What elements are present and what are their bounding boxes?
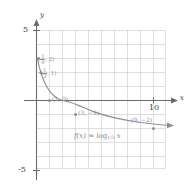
fraction-one-ninth: 19	[40, 54, 45, 66]
point-label-one-ninth: (19, 2)	[38, 54, 55, 66]
point-label-one-third: (13, 1)	[40, 68, 57, 80]
y-axis-arrowhead	[34, 19, 40, 26]
equation-equals: =	[88, 132, 94, 140]
point-marker-three	[74, 113, 77, 116]
curve-right-arrowhead	[167, 123, 174, 129]
equation-variable: x	[117, 132, 121, 140]
equation-base-subscript: 1/3	[107, 135, 114, 140]
point-label-tail: , 1)	[47, 70, 56, 76]
coordinate-plane-svg	[0, 0, 194, 185]
x-tick-label-10: 10	[149, 104, 159, 112]
x-axis-label: x	[180, 95, 184, 102]
point-marker-nine	[152, 127, 155, 130]
point-label-three: (3, −1)	[78, 110, 99, 116]
point-marker-one-zero	[48, 99, 51, 102]
y-axis-label: y	[40, 12, 44, 19]
point-label-tail: , 2)	[45, 56, 54, 62]
graph-figure: y x 5 -5 10 (19, 2) (13, 1) (1, 0) (3, −…	[0, 0, 194, 185]
x-axis-arrowhead	[171, 98, 178, 104]
fraction-one-third: 13	[42, 68, 47, 80]
equation-paren-x: (x)	[77, 132, 86, 140]
function-equation-label: f(x) = log1/3 x	[74, 133, 121, 140]
point-label-nine: (9, −2)	[131, 117, 152, 123]
y-tick-label-neg5: -5	[18, 166, 26, 174]
equation-log: log	[96, 132, 107, 140]
point-label-one-zero: (1, 0)	[52, 96, 68, 102]
y-tick-label-5: 5	[23, 26, 28, 34]
